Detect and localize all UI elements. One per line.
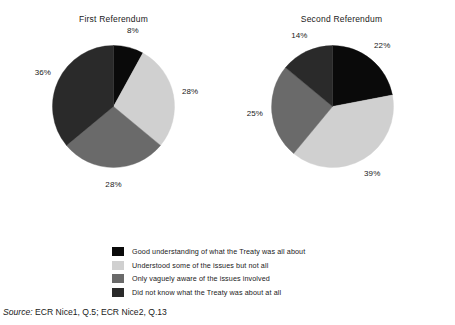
pie-slice-value-label: 28% [182, 87, 198, 96]
legend-item: Good understanding of what the Treaty wa… [112, 245, 432, 259]
pie-slice-value-label: 25% [247, 109, 263, 118]
source-note: Source: ECR Nice1, Q.5; ECR Nice2, Q.13 [3, 307, 167, 317]
pie-slice-value-label: 28% [105, 180, 121, 189]
source-text: ECR Nice1, Q.5; ECR Nice2, Q.13 [33, 307, 167, 317]
legend-item-label: Did not know what the Treaty was about a… [132, 288, 281, 297]
pie-title-second-referendum: Second Referendum [228, 14, 455, 24]
legend-color-swatch [112, 274, 124, 283]
pie-graphic-first-referendum [51, 44, 176, 169]
legend-color-swatch [112, 247, 124, 256]
pie-panel-first-referendum: First Referendum 8%28%28%36% [0, 0, 227, 238]
source-label: Source: [3, 307, 33, 317]
legend-color-swatch [112, 288, 124, 297]
legend-item-label: Good understanding of what the Treaty wa… [132, 247, 305, 256]
pie-panel-second-referendum: Second Referendum 22%39%25%14% [228, 0, 455, 238]
pie-slice-value-label: 36% [35, 68, 51, 77]
pie-graphic-second-referendum [270, 44, 395, 169]
chart-legend: Good understanding of what the Treaty wa… [112, 245, 432, 299]
pie-slice-value-label: 22% [374, 41, 390, 50]
pie-title-first-referendum: First Referendum [0, 14, 227, 24]
pie-slice-value-label: 39% [364, 169, 380, 178]
pie-slice-value-label: 14% [291, 31, 307, 40]
pie-svg-second-referendum [270, 44, 395, 169]
pie-svg-first-referendum [51, 44, 176, 169]
pie-chart-figure: First Referendum 8%28%28%36% Second Refe… [0, 0, 455, 325]
legend-item: Only vaguely aware of the issues involve… [112, 272, 432, 286]
legend-color-swatch [112, 261, 124, 270]
legend-item: Understood some of the issues but not al… [112, 259, 432, 273]
legend-item-label: Only vaguely aware of the issues involve… [132, 274, 270, 283]
legend-item: Did not know what the Treaty was about a… [112, 286, 432, 300]
pie-slice-value-label: 8% [127, 26, 139, 35]
legend-item-label: Understood some of the issues but not al… [132, 261, 268, 270]
